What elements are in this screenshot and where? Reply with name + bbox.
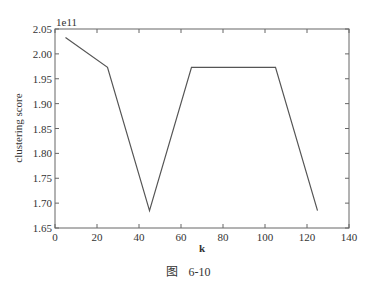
y-tick-label: 1.85 <box>33 123 53 135</box>
x-tick-label: 100 <box>257 231 274 243</box>
x-axis-label: k <box>199 242 206 254</box>
line-chart: 1.651.701.751.801.851.901.952.002.05 020… <box>0 0 376 260</box>
y-tick-label: 1.65 <box>33 222 53 234</box>
x-tick-label: 120 <box>299 231 316 243</box>
x-tick-label: 140 <box>341 231 358 243</box>
y-axis-ticks: 1.651.701.751.801.851.901.952.002.05 <box>33 23 349 234</box>
x-tick-label: 60 <box>176 231 188 243</box>
y-tick-label: 1.90 <box>33 98 53 110</box>
caption-number: 6-10 <box>189 265 211 279</box>
y-axis-label: clustering score <box>12 93 24 162</box>
x-tick-label: 80 <box>218 231 230 243</box>
y-offset-label: 1e11 <box>56 16 77 28</box>
y-tick-label: 1.75 <box>33 172 53 184</box>
caption-prefix: 图 <box>166 265 178 279</box>
plot-frame <box>55 29 349 228</box>
y-tick-label: 1.95 <box>33 73 53 85</box>
figure-caption: 图 6-10 <box>0 262 376 280</box>
x-tick-label: 0 <box>52 231 58 243</box>
x-tick-label: 40 <box>134 231 146 243</box>
y-tick-label: 2.05 <box>33 23 53 35</box>
y-tick-label: 1.70 <box>33 197 53 209</box>
x-tick-label: 20 <box>92 231 104 243</box>
y-tick-label: 2.00 <box>33 48 53 60</box>
clustering-score-line <box>66 38 318 211</box>
y-tick-label: 1.80 <box>33 147 53 159</box>
